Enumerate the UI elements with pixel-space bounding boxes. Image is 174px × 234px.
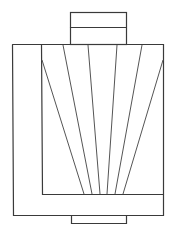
bottom-tab [72,216,127,224]
ray-4 [107,45,117,194]
converging-lines [42,45,163,194]
ray-1 [42,60,84,194]
outer-box [13,45,164,216]
inner-left-edge [42,45,43,195]
top-tab [71,13,127,45]
ray-6 [123,60,163,194]
line-drawing [0,0,174,234]
ray-3 [88,45,100,194]
ray-5 [115,45,142,194]
